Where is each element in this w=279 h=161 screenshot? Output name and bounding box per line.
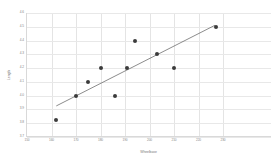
- x-tick-label: 190: [122, 139, 127, 143]
- data-point: [133, 39, 137, 43]
- y-axis-label: Length: [7, 70, 11, 80]
- data-point: [214, 25, 218, 29]
- data-point: [74, 94, 78, 98]
- x-tick-label: 210: [171, 139, 176, 143]
- x-tick-label: 180: [98, 139, 103, 143]
- y-tick-label: 4.5: [20, 25, 24, 29]
- x-tick-label: 220: [196, 139, 201, 143]
- y-tick-label: 4.3: [20, 53, 24, 57]
- y-tick-label: 3.7: [20, 135, 24, 139]
- y-tick-label: 4.2: [20, 66, 24, 70]
- x-tick-label: 160: [49, 139, 54, 143]
- data-point: [99, 66, 103, 70]
- y-tick-label: 3.9: [20, 108, 24, 112]
- x-tick-label: 230: [220, 139, 225, 143]
- x-tick-label: 150: [24, 139, 29, 143]
- y-tick-label: 3.8: [20, 121, 24, 125]
- y-tick-label: 4.4: [20, 39, 24, 43]
- plot-area: 3.73.83.94.04.14.24.34.44.54.6 150160170…: [26, 13, 271, 137]
- y-tick-label: 4.6: [20, 11, 24, 15]
- scatter-chart: 3.73.83.94.04.14.24.34.44.54.6 150160170…: [0, 0, 279, 161]
- trend-line: [27, 13, 271, 136]
- x-tick-label: 170: [73, 139, 78, 143]
- y-tick-label: 4.0: [20, 94, 24, 98]
- x-tick-label: 200: [147, 139, 152, 143]
- y-tick-label: 4.1: [20, 80, 24, 84]
- data-point: [113, 94, 117, 98]
- x-axis-label: Wheelbase: [26, 150, 271, 154]
